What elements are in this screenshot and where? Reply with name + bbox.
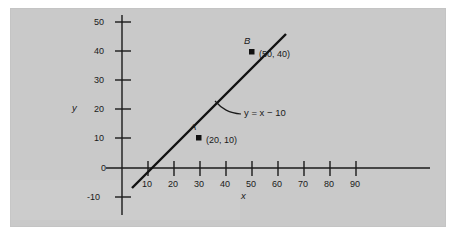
x-axis-label: x <box>241 191 246 201</box>
y-tick-label-0: 0 <box>101 163 106 173</box>
y-tick-label-40: 40 <box>94 46 104 56</box>
x-tick-label-90: 90 <box>350 179 360 189</box>
point-coords-b: (50, 40) <box>259 49 290 59</box>
x-tick-label-60: 60 <box>272 179 282 189</box>
x-tick-label-30: 30 <box>194 179 204 189</box>
point-marker-b <box>249 49 255 55</box>
chart-panel: 50 40 30 20 10 0 -10 10 20 30 40 50 60 7… <box>10 8 446 227</box>
x-tick-label-20: 20 <box>168 179 178 189</box>
x-tick-label-50: 50 <box>246 179 256 189</box>
x-tick-label-80: 80 <box>324 179 334 189</box>
y-axis-label: y <box>72 103 77 113</box>
point-label-a: A <box>190 122 196 132</box>
y-tick-label-neg10: -10 <box>87 192 100 202</box>
y-tick-label-50: 50 <box>94 17 104 27</box>
x-tick-label-10: 10 <box>142 179 152 189</box>
x-tick-label-40: 40 <box>220 179 230 189</box>
y-tick-label-10: 10 <box>94 133 104 143</box>
equation-leader-line <box>215 101 241 114</box>
figure-root: 50 40 30 20 10 0 -10 10 20 30 40 50 60 7… <box>0 0 456 236</box>
x-tick-label-70: 70 <box>298 179 308 189</box>
point-coords-a: (20, 10) <box>206 135 237 145</box>
plot-area <box>10 8 446 227</box>
equation-text: y = x − 10 <box>244 107 286 118</box>
equation-label: y = x − 10 <box>244 108 286 118</box>
y-axis-ticks <box>115 22 131 197</box>
point-label-b: B <box>244 36 250 46</box>
y-tick-label-20: 20 <box>94 104 104 114</box>
y-tick-label-30: 30 <box>94 75 104 85</box>
point-marker-a <box>196 135 202 141</box>
